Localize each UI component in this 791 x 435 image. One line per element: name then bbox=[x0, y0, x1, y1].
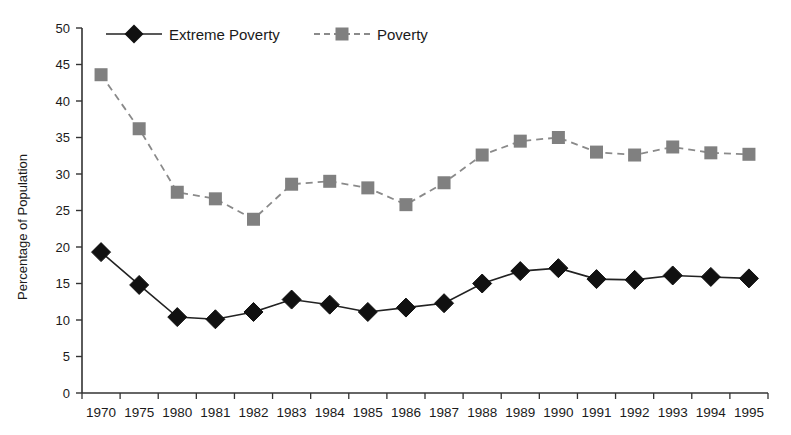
data-point-marker bbox=[247, 213, 260, 226]
data-point-marker bbox=[171, 186, 184, 199]
x-tick-label: 1986 bbox=[391, 405, 421, 420]
y-tick-label: 30 bbox=[56, 167, 70, 182]
data-point-marker bbox=[209, 192, 222, 205]
data-point-marker bbox=[628, 149, 641, 162]
y-tick-label: 45 bbox=[56, 57, 70, 72]
x-tick-label: 1983 bbox=[277, 405, 307, 420]
y-tick-label: 20 bbox=[56, 240, 70, 255]
legend-square-icon bbox=[336, 28, 349, 41]
data-point-marker bbox=[285, 178, 298, 191]
x-tick-label: 1970 bbox=[86, 405, 116, 420]
y-axis-title-label: Percentage of Population bbox=[15, 154, 30, 300]
x-tick-label: 1987 bbox=[429, 405, 459, 420]
data-point-marker bbox=[133, 122, 146, 135]
y-tick-label: 10 bbox=[56, 313, 70, 328]
x-tick-label: 1989 bbox=[505, 405, 535, 420]
legend-label: Poverty bbox=[377, 26, 428, 43]
x-tick-label: 1992 bbox=[620, 405, 650, 420]
data-point-marker bbox=[361, 181, 374, 194]
x-tick-label: 1980 bbox=[162, 405, 192, 420]
y-axis-title: Percentage of Population bbox=[15, 154, 30, 300]
x-tick-label: 1975 bbox=[124, 405, 154, 420]
x-tick-label: 1993 bbox=[658, 405, 688, 420]
poverty-trend-chart: Percentage of Population 051015202530354… bbox=[0, 0, 791, 435]
chart-background bbox=[0, 0, 791, 435]
legend-item-extreme-poverty[interactable]: Extreme Poverty bbox=[106, 25, 280, 44]
y-tick-label: 50 bbox=[56, 21, 70, 36]
data-point-marker bbox=[95, 68, 108, 81]
y-tick-label: 0 bbox=[63, 386, 70, 401]
y-tick-label: 35 bbox=[56, 130, 70, 145]
x-tick-label: 1991 bbox=[581, 405, 611, 420]
chart-canvas: Percentage of Population 051015202530354… bbox=[0, 0, 791, 435]
data-point-marker bbox=[704, 146, 717, 159]
x-tick-label: 1981 bbox=[200, 405, 230, 420]
data-point-marker bbox=[590, 146, 603, 159]
x-tick-label: 1994 bbox=[696, 405, 727, 420]
x-tick-label: 1988 bbox=[467, 405, 497, 420]
y-tick-label: 5 bbox=[63, 349, 70, 364]
y-tick-label: 15 bbox=[56, 276, 70, 291]
data-point-marker bbox=[476, 149, 489, 162]
x-tick-label: 1985 bbox=[353, 405, 383, 420]
data-point-marker bbox=[666, 140, 679, 153]
x-tick-label: 1984 bbox=[315, 405, 346, 420]
data-point-marker bbox=[552, 131, 565, 144]
data-point-marker bbox=[514, 135, 527, 148]
data-point-marker bbox=[742, 148, 755, 161]
y-tick-label: 25 bbox=[56, 203, 70, 218]
x-tick-label: 1990 bbox=[543, 405, 573, 420]
x-tick-label: 1982 bbox=[238, 405, 268, 420]
y-tick-label: 40 bbox=[56, 94, 70, 109]
data-point-marker bbox=[323, 175, 336, 188]
data-point-marker bbox=[399, 198, 412, 211]
x-tick-label: 1995 bbox=[734, 405, 764, 420]
legend-label: Extreme Poverty bbox=[169, 26, 280, 43]
data-point-marker bbox=[438, 176, 451, 189]
